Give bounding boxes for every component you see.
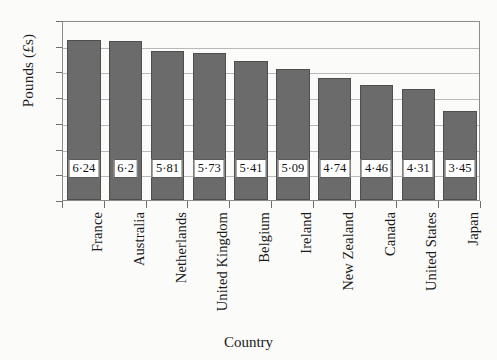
bar-value-label: 5·73 xyxy=(194,159,225,179)
bar-value-label: 5·09 xyxy=(277,159,308,179)
y-axis-title-prefix: Pounds ( xyxy=(20,53,36,108)
x-category-label: Japan xyxy=(465,212,482,246)
x-tick-mark xyxy=(229,201,230,208)
bar-slot[interactable]: 5·73 xyxy=(188,22,230,200)
x-category-label: Australia xyxy=(131,212,148,266)
bar-slot[interactable]: 5·41 xyxy=(230,22,272,200)
x-tick-mark xyxy=(355,201,356,208)
bar[interactable] xyxy=(318,78,351,200)
y-axis-title-suffix: s) xyxy=(20,34,36,45)
x-category-label: Netherlands xyxy=(173,212,190,283)
bar-slot[interactable]: 5·09 xyxy=(272,22,314,200)
y-tick-mark xyxy=(56,47,62,48)
bar-slot[interactable]: 4·31 xyxy=(397,22,439,200)
x-axis-title: Country xyxy=(0,334,497,351)
bar-value-label: 5·81 xyxy=(152,159,183,179)
bar[interactable] xyxy=(276,69,309,200)
x-category-label: Canada xyxy=(382,212,399,256)
x-tick-mark xyxy=(104,201,105,208)
x-category-label: United Kingdom xyxy=(214,212,231,311)
y-tick-mark xyxy=(56,124,62,125)
bar-value-label: 5·41 xyxy=(236,159,267,179)
y-tick-mark xyxy=(56,175,62,176)
bar-slot[interactable]: 3·45 xyxy=(439,22,481,200)
x-tick-mark xyxy=(187,201,188,208)
pound-currency-symbol: £ xyxy=(20,45,36,53)
bar[interactable] xyxy=(234,61,267,200)
bar-value-label: 6·2 xyxy=(113,159,138,179)
bars-layer: 6·246·25·815·735·415·094·744·464·313·45 xyxy=(63,22,479,200)
y-tick-mark xyxy=(56,72,62,73)
x-category-label: New Zealand xyxy=(340,212,357,291)
x-tick-mark xyxy=(438,201,439,208)
x-category-label: United States xyxy=(423,212,440,291)
x-category-label: Ireland xyxy=(298,212,315,254)
bar[interactable] xyxy=(402,89,435,200)
plot-area: 6·246·25·815·735·415·094·744·464·313·45 xyxy=(62,21,480,201)
y-axis-title: Pounds (£s) xyxy=(20,0,37,146)
bar-slot[interactable]: 6·2 xyxy=(105,22,147,200)
bar[interactable] xyxy=(360,85,393,200)
x-tick-mark xyxy=(271,201,272,208)
bar-value-label: 4·31 xyxy=(403,159,434,179)
x-tick-mark xyxy=(146,201,147,208)
bar-value-label: 4·74 xyxy=(319,159,350,179)
bar-slot[interactable]: 4·46 xyxy=(356,22,398,200)
bar-slot[interactable]: 5·81 xyxy=(147,22,189,200)
x-category-label: France xyxy=(89,212,106,252)
bar-value-label: 6·24 xyxy=(68,159,99,179)
bar-slot[interactable]: 4·74 xyxy=(314,22,356,200)
x-tick-mark xyxy=(62,201,63,208)
x-tick-mark xyxy=(313,201,314,208)
x-tick-mark xyxy=(480,201,481,208)
x-category-label: Belgium xyxy=(256,212,273,263)
x-tick-mark xyxy=(396,201,397,208)
y-tick-mark xyxy=(56,150,62,151)
bar-slot[interactable]: 6·24 xyxy=(63,22,105,200)
bar-value-label: 4·46 xyxy=(361,159,392,179)
y-tick-mark xyxy=(56,98,62,99)
y-tick-mark xyxy=(56,21,62,22)
bar-value-label: 3·45 xyxy=(445,159,476,179)
bar-chart-figure: Pounds (£s) 6·246·25·815·735·415·094·744… xyxy=(0,0,497,360)
bar[interactable] xyxy=(443,111,476,200)
